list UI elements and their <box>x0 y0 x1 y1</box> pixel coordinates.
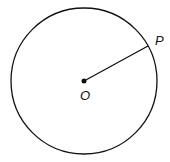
label-o: O <box>80 88 90 103</box>
label-p: P <box>155 33 164 48</box>
radius-segment-op <box>84 46 148 81</box>
center-point <box>82 79 87 84</box>
circle-diagram: P O <box>0 0 170 162</box>
